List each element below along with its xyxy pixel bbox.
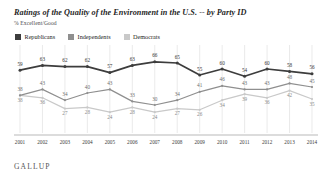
- svg-text:40: 40: [85, 84, 91, 90]
- svg-text:38: 38: [17, 97, 23, 103]
- svg-text:65: 65: [175, 54, 181, 60]
- svg-text:35: 35: [309, 101, 315, 107]
- svg-text:36: 36: [264, 99, 270, 105]
- svg-text:63: 63: [130, 56, 136, 62]
- svg-text:56: 56: [309, 64, 315, 70]
- x-tick-label: 2004: [82, 138, 92, 146]
- x-tick-label: 2003: [60, 138, 70, 146]
- svg-text:57: 57: [107, 63, 113, 69]
- svg-text:34: 34: [175, 91, 181, 97]
- svg-text:36: 36: [40, 99, 46, 105]
- svg-text:34: 34: [220, 102, 226, 108]
- svg-text:43: 43: [107, 80, 113, 86]
- legend-item-independents: Independents: [68, 33, 111, 40]
- svg-text:48: 48: [287, 74, 293, 80]
- svg-text:38: 38: [17, 86, 23, 92]
- x-tick-label: 2014: [307, 138, 317, 146]
- svg-text:58: 58: [287, 62, 293, 68]
- svg-text:55: 55: [197, 66, 203, 72]
- line-chart-svg: 5963626257636665556054605856384334404333…: [14, 45, 318, 133]
- svg-text:27: 27: [62, 110, 68, 116]
- legend-label-democrats: Democrats: [133, 33, 160, 40]
- legend-swatch-republicans: [15, 34, 21, 40]
- svg-text:66: 66: [152, 52, 158, 58]
- svg-text:27: 27: [175, 110, 181, 116]
- svg-text:28: 28: [130, 109, 136, 115]
- chart-subtitle: % Excellent/Good: [14, 19, 318, 27]
- x-tick-label: 2001: [15, 138, 25, 146]
- svg-text:26: 26: [197, 111, 203, 117]
- page-title: Ratings of the Quality of the Environmen…: [14, 8, 318, 18]
- svg-text:46: 46: [220, 76, 226, 82]
- chart-plot-area: 5963626257636665556054605856384334404333…: [14, 45, 318, 133]
- svg-text:41: 41: [197, 82, 203, 88]
- svg-text:60: 60: [264, 60, 270, 66]
- svg-text:24: 24: [107, 114, 113, 120]
- svg-text:42: 42: [287, 92, 293, 98]
- x-tick-label: 2013: [284, 138, 294, 146]
- svg-text:33: 33: [130, 92, 136, 98]
- svg-text:34: 34: [62, 91, 68, 97]
- legend-swatch-independents: [68, 34, 74, 40]
- legend-swatch-democrats: [124, 34, 130, 40]
- svg-text:62: 62: [85, 57, 91, 63]
- x-tick-label: 2009: [195, 138, 205, 146]
- x-tick-label: 2005: [105, 138, 115, 146]
- x-tick-label: 2010: [217, 138, 227, 146]
- svg-text:60: 60: [220, 60, 226, 66]
- svg-text:24: 24: [152, 114, 158, 120]
- svg-text:39: 39: [242, 96, 248, 102]
- x-tick-label: 2012: [262, 138, 272, 146]
- x-tick-label: 2007: [150, 138, 160, 146]
- svg-text:43: 43: [242, 80, 248, 86]
- x-tick-label: 2011: [240, 138, 250, 146]
- svg-text:43: 43: [40, 80, 46, 86]
- svg-text:28: 28: [85, 109, 91, 115]
- legend-item-democrats: Democrats: [124, 33, 160, 40]
- x-axis: 2001200220032004200520062007200820092010…: [14, 134, 318, 146]
- svg-text:59: 59: [17, 61, 23, 67]
- legend-label-independents: Independents: [78, 33, 111, 40]
- svg-text:30: 30: [152, 96, 158, 102]
- x-tick-label: 2002: [37, 138, 47, 146]
- x-tick-label: 2006: [127, 138, 137, 146]
- svg-text:54: 54: [242, 67, 248, 73]
- chart-legend: Republicans Independents Democrats: [15, 33, 318, 40]
- x-axis-tick-labels: 2001200220032004200520062007200820092010…: [14, 138, 318, 147]
- svg-text:43: 43: [264, 80, 270, 86]
- legend-item-republicans: Republicans: [15, 33, 55, 40]
- svg-text:62: 62: [62, 57, 68, 63]
- svg-text:45: 45: [309, 78, 315, 84]
- legend-label-republicans: Republicans: [25, 33, 56, 40]
- gallup-chart-card: Ratings of the Quality of the Environmen…: [0, 0, 328, 176]
- svg-text:63: 63: [40, 56, 46, 62]
- brand-footer: GALLUP: [14, 162, 51, 171]
- x-tick-label: 2008: [172, 138, 182, 146]
